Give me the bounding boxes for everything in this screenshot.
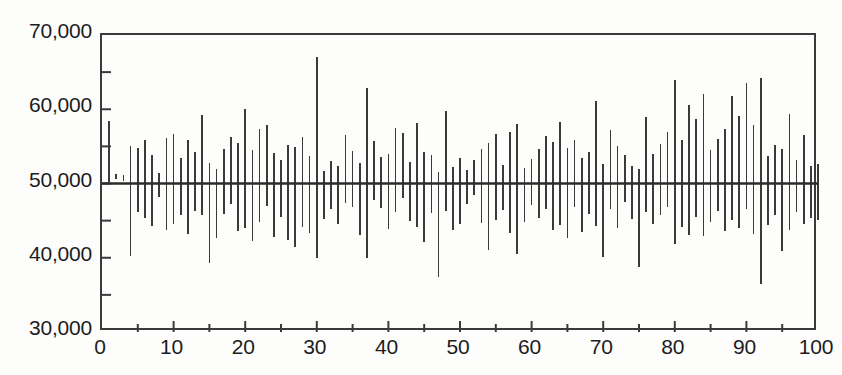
x-tick-label: 10 — [160, 335, 183, 359]
x-axis-label-group: 0102030405060708090100 — [0, 0, 842, 375]
chart-container: 30,00040,00050,00060,00070,000 010203040… — [0, 0, 842, 375]
x-tick-label: 60 — [518, 335, 541, 359]
x-tick-label: 30 — [303, 335, 326, 359]
x-tick-label: 50 — [447, 335, 470, 359]
x-tick-label: 20 — [232, 335, 255, 359]
x-tick-label: 100 — [799, 335, 833, 359]
x-tick-label: 70 — [590, 335, 613, 359]
x-tick-label: 40 — [375, 335, 398, 359]
x-tick-label: 90 — [733, 335, 756, 359]
x-tick-label: 80 — [661, 335, 684, 359]
x-tick-label: 0 — [94, 335, 105, 359]
